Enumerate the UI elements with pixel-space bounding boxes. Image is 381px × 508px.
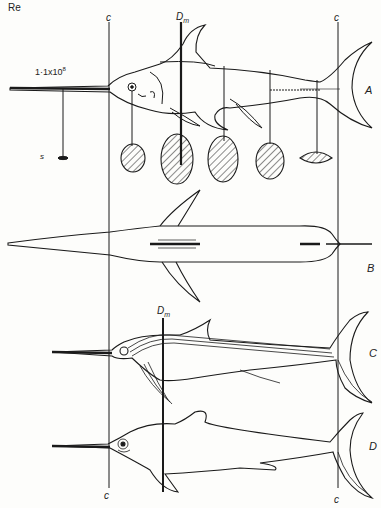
- dm-label-top: Dm: [176, 11, 189, 24]
- fish-d: [52, 411, 372, 498]
- dm-label-mid: Dm: [157, 305, 170, 318]
- cross-sections: [121, 134, 332, 184]
- re-value-label: 1·1x108: [35, 66, 66, 77]
- c-label-top-right: c: [334, 12, 339, 23]
- panel-label-d: D: [369, 440, 377, 452]
- panel-label-c: C: [369, 347, 377, 359]
- c-label-top-left: c: [106, 12, 111, 23]
- re-axis-label: Re: [8, 2, 21, 13]
- fish-a: [10, 25, 372, 160]
- c-label-bottom-right: c: [334, 494, 339, 505]
- swordfish-figure: Re c c Dm 1·1x108 s A B Dm C D c c: [0, 0, 381, 508]
- panel-label-b: B: [367, 262, 374, 274]
- s-label: s: [40, 152, 44, 161]
- panel-label-a: A: [365, 84, 372, 96]
- fish-c: [52, 312, 372, 404]
- fish-b: [8, 190, 372, 302]
- c-label-bottom-left: c: [104, 490, 109, 501]
